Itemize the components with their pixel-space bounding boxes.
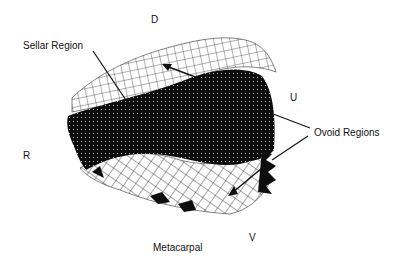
metacarpal-label: Metacarpal <box>153 242 202 254</box>
axis-label-volar: V <box>249 232 256 244</box>
axis-label-dorsal: D <box>151 14 158 26</box>
sellar-region-label: Sellar Region <box>23 40 83 52</box>
axis-label-ulnar: U <box>290 92 297 104</box>
ovoid-leader-lower <box>272 136 308 160</box>
wireframe-figure: D U R V Sellar Region Ovoid Regions Meta… <box>0 0 398 266</box>
axis-label-radial: R <box>23 150 30 162</box>
ovoid-regions-label: Ovoid Regions <box>314 127 380 139</box>
